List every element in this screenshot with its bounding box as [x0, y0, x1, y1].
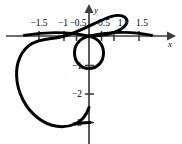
plot-canvas: −1.5 −1 −0.5 0.5 1 1.5 −1 −2 −3 x y — [0, 0, 182, 144]
y-tick-label--3: −3 — [72, 118, 82, 128]
y-axis-label: y — [93, 5, 98, 15]
polar-curve-figure: −1.5 −1 −0.5 0.5 1 1.5 −1 −2 −3 x y — [0, 0, 182, 144]
y-tick-labels: −1 −2 −3 — [72, 61, 82, 128]
curve-group — [17, 16, 152, 127]
x-tick-label-0.5: 0.5 — [98, 18, 110, 28]
x-tick-label--0.5: −0.5 — [69, 18, 86, 28]
y-tick-label--1: −1 — [72, 61, 82, 71]
x-tick-label-1.5: 1.5 — [136, 18, 148, 28]
x-tick-label--1.5: −1.5 — [30, 18, 47, 28]
y-axis-arrowhead — [85, 4, 94, 13]
x-tick-label--1: −1 — [58, 18, 68, 28]
y-tick-label--2: −2 — [72, 89, 82, 99]
x-axis-label: x — [167, 39, 172, 49]
x-tick-label-1: 1 — [118, 18, 123, 28]
